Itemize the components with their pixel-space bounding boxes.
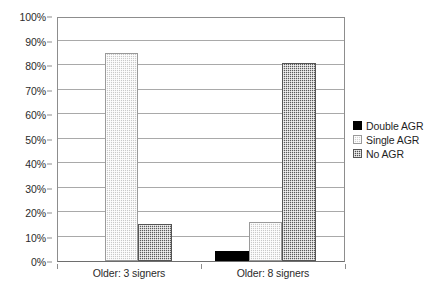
y-tick-mark [47,237,52,238]
y-tick-label: 100% [20,11,46,23]
legend-swatch-icon [353,149,362,158]
y-tick-label: 50% [25,134,46,146]
y-tick-label: 80% [25,60,46,72]
y-tick-mark [47,188,52,189]
y-tick-mark [47,90,52,91]
bar-single-group1 [105,53,139,261]
x-axis: Older: 3 signersOlder: 8 signers [57,264,345,288]
bar-chart: 0%10%20%30%40%50%60%70%80%90%100% Older:… [0,0,436,290]
y-axis: 0%10%20%30%40%50%60%70%80%90%100% [0,17,52,262]
bar-noagr-group2 [282,63,316,261]
y-tick-label: 70% [25,85,46,97]
plot-area [57,17,345,262]
x-tick-label: Older: 3 signers [93,267,166,279]
y-tick-mark [47,213,52,214]
y-tick-label: 0% [31,256,46,268]
x-tick-mark [201,264,202,269]
y-tick-mark [47,17,52,18]
y-tick-label: 30% [25,183,46,195]
legend-swatch-icon [353,135,362,144]
y-tick-mark [47,41,52,42]
legend-item-single: Single AGR [353,133,433,146]
x-tick-label: Older: 8 signers [237,267,310,279]
y-tick-mark [47,115,52,116]
bar-double-group2 [215,251,249,261]
y-tick-label: 90% [25,36,46,48]
x-tick-mark [345,264,346,269]
y-tick-mark [47,164,52,165]
y-tick-mark [47,139,52,140]
legend-swatch-icon [353,121,362,130]
legend-item-double: Double AGR [353,119,433,132]
y-tick-label: 60% [25,109,46,121]
bar-single-group2 [249,222,283,261]
chart-legend: Double AGRSingle AGRNo AGR [353,119,433,161]
legend-item-label: Single AGR [366,134,419,146]
y-tick-label: 20% [25,207,46,219]
x-tick-mark [57,264,58,269]
y-tick-label: 40% [25,158,46,170]
bars-layer [58,18,344,261]
bar-noagr-group1 [138,224,172,261]
legend-item-label: Double AGR [366,120,423,132]
y-tick-mark [47,66,52,67]
legend-item-noagr: No AGR [353,147,433,160]
y-tick-mark [47,262,52,263]
legend-item-label: No AGR [366,148,404,160]
y-tick-label: 10% [25,232,46,244]
